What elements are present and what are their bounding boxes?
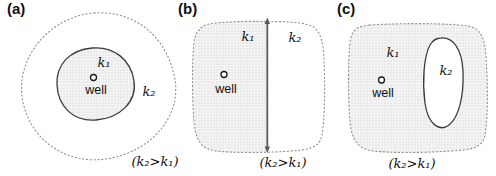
panel-a-well-marker [91,75,97,81]
panel-c-k2-lens [424,38,464,128]
panel-c-k2-region-label: k₂ [434,64,458,78]
panel-c-tag: (c) [337,2,355,16]
panel-c-well-marker [379,77,385,83]
panel-a-k2-region-label: k₂ [137,85,161,99]
panel-c-condition-label: (k₂>k₁) [382,157,442,171]
panel-a-well-label: well [79,83,113,97]
panel-b-condition-label: (k₂>k₁) [253,156,313,170]
composite-reservoir-figure: (a) k₁ k₂ well (k₂>k₁) (b) k₁ k₂ well (k… [0,0,496,176]
panel-a-tag: (a) [7,2,25,16]
panel-a-k1-region-label: k₁ [92,56,116,70]
panel-c-k1-region-label: k₁ [381,46,405,60]
panel-b-tag: (b) [178,2,197,16]
panel-c-well-label: well [366,86,400,100]
panel-b-interface-top-tip [265,18,270,25]
panel-b-k2-region-label: k₂ [283,31,307,45]
panel-b-well-marker [221,72,227,78]
figure-shapes [0,0,496,176]
panel-a-condition-label: (k₂>k₁) [125,155,185,169]
panel-b-k1-region-label: k₁ [236,30,260,44]
panel-b-well-label: well [209,82,243,96]
